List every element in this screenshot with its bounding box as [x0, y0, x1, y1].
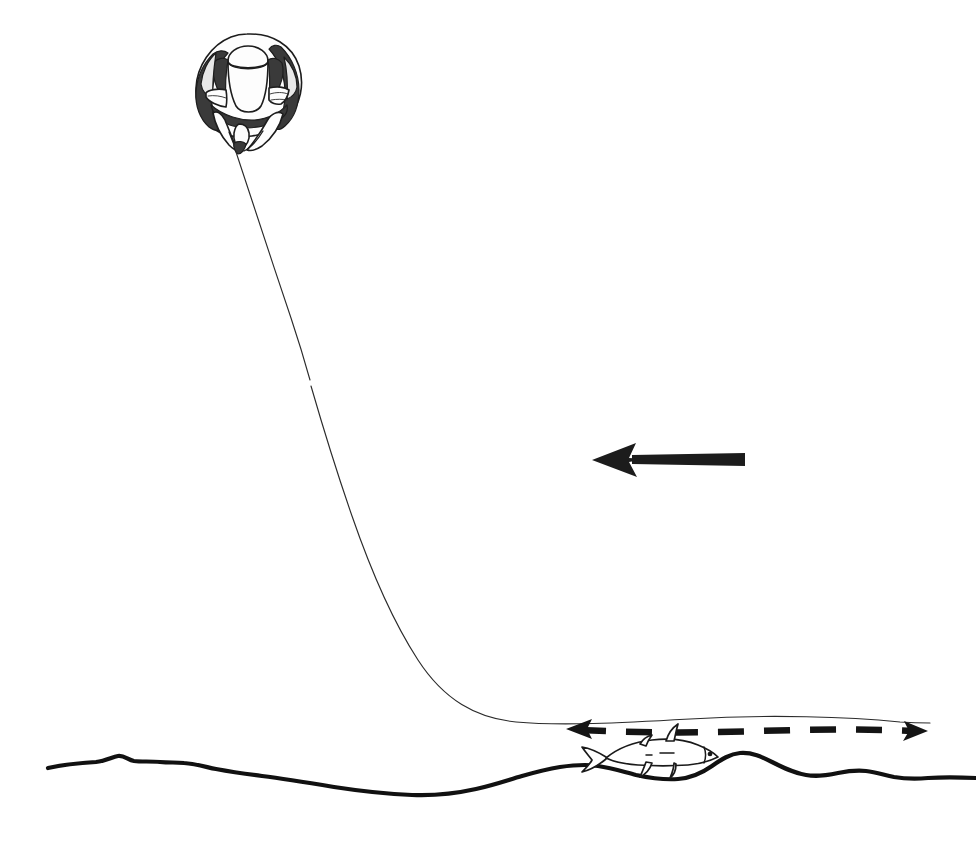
figure-background: [0, 0, 976, 841]
figure-illustration: [0, 0, 976, 841]
figure-canvas: Trawl kite and ground line diagram: [0, 0, 976, 841]
fish-eye: [708, 752, 713, 756]
current-arrow-shaft: [632, 453, 745, 466]
